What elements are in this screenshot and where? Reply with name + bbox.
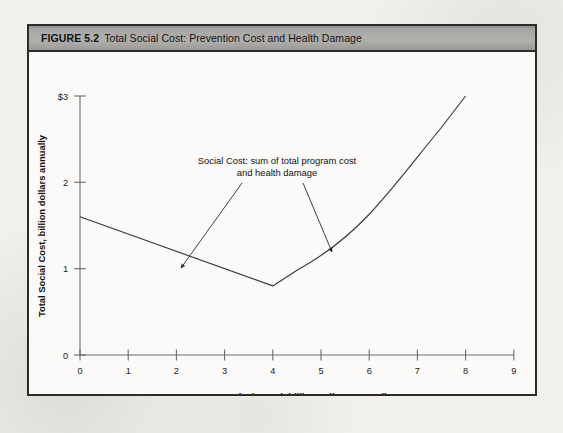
- x-tick-label-4: 4: [270, 366, 275, 376]
- figure-title: Total Social Cost: Prevention Cost and H…: [104, 32, 362, 44]
- y-tick-label-1: 1: [63, 264, 68, 274]
- figure-titlebar: FIGURE 5.2 Total Social Cost: Prevention…: [29, 26, 535, 52]
- annotation-arrow-left: [181, 183, 242, 268]
- x-tick-label-9: 9: [511, 366, 516, 376]
- x-axis-title: Waste Discharged, billion gallons annual…: [202, 391, 393, 394]
- social-cost-curve-main: [80, 96, 466, 286]
- y-axis-tick-labels: 0 1 2 $3: [58, 92, 68, 361]
- x-tick-label-7: 7: [415, 366, 420, 376]
- annotation-line-2: and health damage: [237, 167, 317, 178]
- y-tick-label-2: 2: [63, 178, 68, 188]
- x-tick-label-2: 2: [174, 366, 179, 376]
- y-axis-title: Total Social Cost, billion dollars annua…: [36, 134, 47, 317]
- x-tick-label-0: 0: [77, 366, 82, 376]
- figure-number: FIGURE 5.2: [41, 32, 99, 44]
- x-tick-label-8: 8: [463, 366, 468, 376]
- y-tick-label-3: $3: [58, 92, 68, 102]
- x-axis-tick-labels: 0 1 2 3 4 5 6 7 8 9: [77, 366, 516, 376]
- x-tick-label-3: 3: [222, 366, 227, 376]
- x-tick-label-5: 5: [318, 366, 323, 376]
- figure-container: FIGURE 5.2 Total Social Cost: Prevention…: [27, 24, 537, 396]
- x-tick-label-6: 6: [367, 366, 372, 376]
- annotation-line-1: Social Cost: sum of total program cost: [198, 155, 357, 166]
- plot-area: 0 1 2 $3 0 1 2 3: [29, 52, 535, 394]
- y-tick-label-0: 0: [63, 351, 68, 361]
- annotation-arrow-right: [303, 183, 332, 252]
- social-cost-line-chart: 0 1 2 $3 0 1 2 3: [29, 52, 535, 394]
- x-tick-label-1: 1: [126, 366, 131, 376]
